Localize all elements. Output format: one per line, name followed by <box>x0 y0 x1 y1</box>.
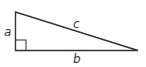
label-c: c <box>73 17 80 31</box>
label-b: b <box>73 52 81 66</box>
right-triangle-diagram: a c b <box>0 0 146 67</box>
label-a: a <box>4 25 11 39</box>
right-angle-marker <box>16 40 27 51</box>
